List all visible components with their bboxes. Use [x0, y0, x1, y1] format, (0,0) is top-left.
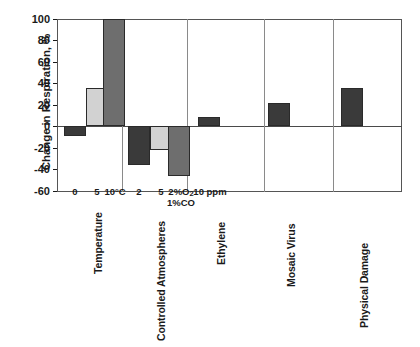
x-tick-sublabel-ca-co: 1%CO: [163, 198, 199, 208]
group-label-mosaic-virus: Mosaic Virus: [285, 224, 297, 287]
y-tick-label-minus-60: -60: [16, 186, 50, 197]
y-tick-label-100: 100: [16, 14, 50, 25]
y-tick-label-0: 0: [16, 121, 50, 132]
group-label-controlled-atmospheres: Controlled Atmospheres: [155, 221, 167, 341]
y-tick-label-minus-20: -20: [16, 143, 50, 154]
y-tick-label-40: 40: [16, 78, 50, 89]
zero-reference-line: [57, 126, 402, 127]
bar-ca-2: [128, 126, 150, 165]
group-label-ethylene: Ethylene: [215, 222, 227, 265]
panel-divider-3: [264, 19, 265, 192]
x-tick-label-temp-10c: 10°C: [100, 187, 130, 197]
group-label-temperature: Temperature: [92, 212, 104, 274]
respiration-bar-chart: Change in Respiration, % 100 80 60 40 20…: [0, 0, 420, 347]
x-tick-label-temp-0: 0: [63, 187, 87, 197]
y-tick-label-80: 80: [16, 35, 50, 46]
y-tick-label-20: 20: [16, 100, 50, 111]
y-tick-label-60: 60: [16, 57, 50, 68]
bar-mosaic-virus: [268, 103, 290, 126]
bar-ethylene-10ppm: [198, 117, 220, 126]
x-tick-label-ca-2: 2: [127, 187, 151, 197]
bar-ca-2pct-o2-1pct-co: [168, 126, 190, 176]
y-tick-label-minus-40: -40: [16, 164, 50, 175]
group-label-physical-damage: Physical Damage: [358, 243, 370, 328]
bar-temperature-10c: [103, 19, 125, 126]
bar-temperature-0: [64, 126, 86, 136]
panel-divider-4: [333, 19, 334, 192]
bar-physical-damage: [341, 88, 363, 126]
x-tick-label-ethylene-ppm: 10 ppm: [190, 187, 230, 197]
